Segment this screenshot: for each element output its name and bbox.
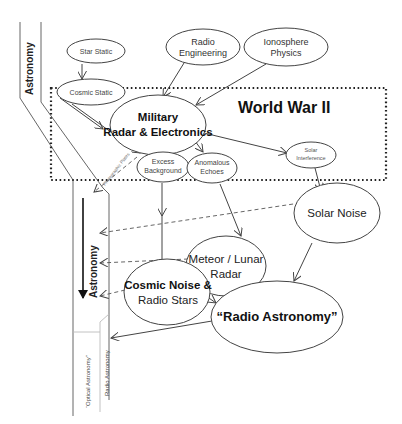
node-label: Echoes (200, 168, 224, 175)
node-label: Background (144, 167, 181, 175)
node-label: Solar (305, 147, 318, 153)
node-excess-background: Excess Background (137, 152, 189, 182)
node-label: Radio (191, 37, 215, 47)
stream-label-astronomy-mid: Astronomy (88, 245, 99, 298)
diagram-canvas: Star Static Radio Engineering Ionosphere… (0, 0, 402, 424)
edge-dashed-cosmic-noise-to-astronomy (100, 290, 125, 296)
stream-label-radio-astronomy: Radio Astronomy (104, 350, 110, 396)
node-solar-noise: Solar Noise (294, 183, 380, 243)
node-label: Meteor / Lunar (189, 253, 264, 265)
node-ionosphere-physics: Ionosphere Physics (244, 28, 328, 66)
stream-label-astronomy-top: Astronomy (24, 42, 35, 95)
node-cosmic-static: Cosmic Static (57, 79, 125, 105)
node-label: “Radio Astronomy” (217, 309, 338, 324)
node-military-radar-electronics: Military Radar & Electronics (103, 95, 212, 155)
node-label: Star Static (80, 48, 113, 55)
node-label: Excess (152, 158, 175, 165)
dashed-edge-label: Photographic Plates (102, 151, 131, 186)
node-label: Physics (270, 48, 302, 58)
node-label: Cosmic Noise & (124, 279, 212, 291)
node-label: Military (138, 111, 179, 123)
node-label: Radar & Electronics (103, 126, 212, 138)
world-war-ii-title: World War II (238, 99, 330, 116)
node-label: Radio Stars (138, 294, 198, 306)
node-label: Anomalous (194, 159, 230, 166)
edge-military-to-solar-interference (204, 133, 287, 153)
node-radio-astronomy: “Radio Astronomy” (211, 281, 343, 353)
node-solar-interference: Solar Interference (286, 142, 336, 168)
node-label: Ionosphere (263, 37, 308, 47)
edge-solar-noise-to-radio-astronomy (294, 243, 312, 281)
node-label: Engineering (179, 48, 227, 58)
node-label: Interference (296, 155, 325, 161)
stream-outer-right-line (41, 22, 109, 400)
stream-label-optical-astronomy: “Optical Astronomy” (85, 355, 91, 408)
node-label: Radar (210, 268, 241, 280)
node-label: Solar Noise (307, 207, 366, 219)
node-anomalous-echoes: Anomalous Echoes (187, 153, 237, 183)
edge-radio-eng-to-military (163, 63, 184, 97)
edge-anomalous-to-meteor (220, 184, 241, 236)
node-radio-engineering: Radio Engineering (166, 29, 240, 65)
edge-dashed-solar-noise-to-astronomy (100, 203, 300, 233)
node-star-static: Star Static (67, 39, 125, 63)
edge-dashed-military-to-astronomy (94, 157, 137, 192)
radio-branch-line (100, 314, 109, 332)
node-label: Cosmic Static (70, 89, 113, 96)
